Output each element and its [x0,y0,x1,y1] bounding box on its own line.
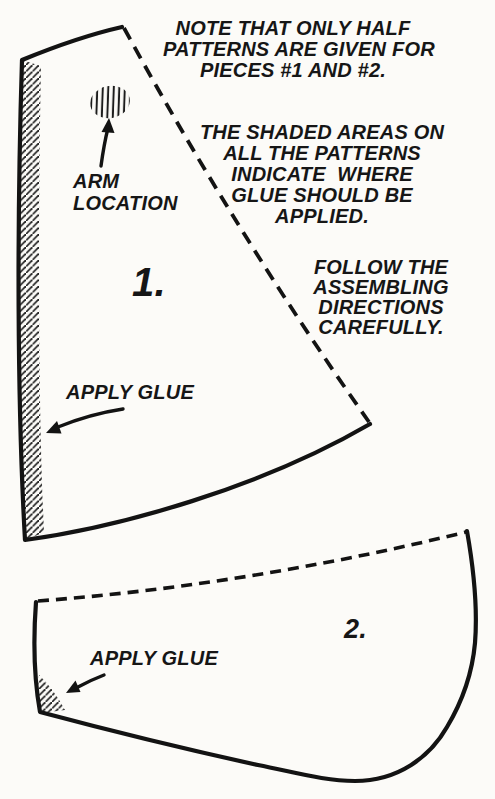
piece2-fold-line [38,532,466,601]
arm-location-spot [87,82,133,122]
piece2-apply-glue-label: APPLY GLUE [90,647,218,670]
note-line: ALL THE PATTERNS [192,143,452,164]
piece2-glue-arrow [78,675,104,687]
arm-arrow-head [102,118,115,133]
note-line: INDICATE WHERE [192,164,452,185]
note-line: PIECES #1 AND #2. [163,60,423,81]
note-line: CAREFULLY. [281,317,481,337]
note-line: THE SHADED AREAS ON [192,122,452,143]
arm-label-line: LOCATION [73,193,178,215]
piece1-glue-arrow [58,409,123,427]
half-pattern-note: NOTE THAT ONLY HALF PATTERNS ARE GIVEN F… [163,18,423,81]
note-line: DIRECTIONS [281,297,481,317]
piece1-glue-arrow-head [46,421,62,434]
directions-note: FOLLOW THE ASSEMBLING DIRECTIONS CAREFUL… [281,257,481,337]
arm-location-label: ARM LOCATION [73,171,178,214]
arm-arrow [101,128,108,166]
arm-label-line: ARM [73,171,178,193]
piece1-number-label: 1. [132,262,166,302]
piece2-glue-corner-hatch [39,675,65,713]
note-line: GLUE SHOULD BE [192,185,452,206]
note-line: ASSEMBLING [281,277,481,297]
pattern-sheet: NOTE THAT ONLY HALF PATTERNS ARE GIVEN F… [0,0,495,799]
note-line: PATTERNS ARE GIVEN FOR [163,39,423,60]
note-line: APPLIED. [192,206,452,227]
note-line: NOTE THAT ONLY HALF [163,18,423,39]
piece1-apply-glue-label: APPLY GLUE [66,381,194,404]
shaded-areas-note: THE SHADED AREAS ON ALL THE PATTERNS IND… [192,122,452,227]
piece2-number-label: 2. [344,616,367,643]
note-line: FOLLOW THE [281,257,481,277]
